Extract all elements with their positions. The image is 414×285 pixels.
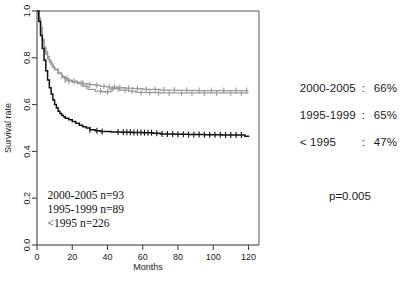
kaplan-meier-plot: 0.00.20.40.60.81.0 020406080100120 2000-… (0, 0, 272, 285)
legend-value-2000-2005: 66% (374, 82, 397, 94)
x-axis-title: Months (133, 262, 163, 272)
censoring-marks (62, 73, 247, 138)
legend-panel: 2000-2005:66% 1995-1999:65% < 1995:47% p… (272, 0, 414, 285)
survival-figure: 0.00.20.40.60.81.0 020406080100120 2000-… (0, 0, 414, 285)
x-axis-ticks: 020406080100120 (34, 245, 255, 262)
x-tick-label: 20 (67, 252, 77, 262)
legend-label-pre-1995: < 1995 (300, 136, 362, 148)
plot-annotation: 2000-2005 n=93 (48, 189, 125, 201)
plot-annotation: 1995-1999 n=89 (48, 203, 125, 215)
legend-value-pre-1995: 47% (374, 136, 397, 148)
legend-separator-2: : (362, 136, 374, 148)
legend-label-2000-2005: 2000-2005 (300, 82, 362, 94)
in-plot-annotations: 2000-2005 n=931995-1999 n=89<1995 n=226 (48, 189, 125, 229)
legend-value-1995-1999: 65% (374, 109, 397, 121)
x-tick-label: 60 (138, 252, 148, 262)
legend-row-pre-1995: < 1995:47% (280, 124, 414, 160)
survival-curves (37, 11, 248, 137)
legend-separator-0: : (362, 82, 374, 94)
plot-annotation: <1995 n=226 (48, 217, 110, 229)
y-tick-label: 0.8 (22, 52, 32, 65)
y-axis-title: Survival rate (3, 103, 13, 153)
y-tick-label: 0.2 (22, 192, 32, 205)
x-tick-label: 0 (34, 252, 39, 262)
p-value-text: p=0.005 (329, 190, 371, 202)
x-tick-label: 80 (173, 252, 183, 262)
x-tick-label: 100 (206, 252, 221, 262)
y-tick-label: 0.4 (22, 145, 32, 158)
x-tick-label: 120 (241, 252, 256, 262)
y-tick-label: 0.6 (22, 98, 32, 111)
y-axis-ticks: 0.00.20.40.60.81.0 (22, 5, 37, 252)
legend-label-1995-1999: 1995-1999 (300, 109, 362, 121)
y-tick-label: 1.0 (22, 5, 32, 18)
y-tick-label: 0.0 (22, 239, 32, 252)
survival-curve--1995 (37, 11, 248, 137)
legend-separator-1: : (362, 109, 374, 121)
chart-panel: 0.00.20.40.60.81.0 020406080100120 2000-… (0, 0, 272, 285)
x-tick-label: 40 (102, 252, 112, 262)
